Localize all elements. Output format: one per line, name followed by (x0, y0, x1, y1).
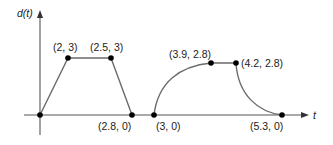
point-2.5-3 (108, 55, 114, 61)
label-5.3-0: (5.3, 0) (250, 120, 283, 132)
distance-time-graph: d(t) t (2, 3) (2.5, 3) (2.8, 0) (3, 0) (… (0, 0, 333, 145)
point-2.8-0 (129, 112, 135, 118)
point-origin (37, 112, 43, 118)
point-3-0 (151, 112, 157, 118)
label-3.9-2.8: (3.9, 2.8) (169, 48, 211, 60)
point-5.3-0 (279, 112, 285, 118)
label-2-3: (2, 3) (53, 41, 78, 53)
y-axis-label: d(t) (17, 7, 33, 19)
x-axis-label: t (313, 109, 317, 121)
y-axis-arrow-icon (37, 10, 43, 18)
series-2-line (154, 63, 282, 115)
point-3.9-2.8 (208, 60, 214, 66)
point-2-3 (65, 55, 71, 61)
series-1-line (40, 58, 132, 115)
label-4.2-2.8: (4.2, 2.8) (241, 57, 283, 69)
label-2.5-3: (2.5, 3) (90, 41, 123, 53)
label-2.8-0: (2.8, 0) (98, 120, 131, 132)
label-3-0: (3, 0) (156, 120, 181, 132)
x-axis-arrow-icon (301, 112, 309, 118)
chart-canvas: d(t) t (2, 3) (2.5, 3) (2.8, 0) (3, 0) (… (0, 0, 333, 145)
point-4.2-2.8 (233, 60, 239, 66)
